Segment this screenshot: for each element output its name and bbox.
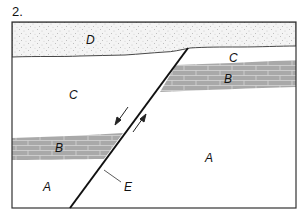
label-a-right: A [204, 151, 213, 165]
label-c-left: C [69, 88, 78, 102]
label-a-left: A [42, 180, 51, 194]
arrow-down-left-icon [115, 107, 128, 125]
label-e-leader [104, 170, 121, 182]
geologic-cross-section: 2. D C B C B A A E [0, 0, 302, 218]
figure-number: 2. [12, 4, 23, 19]
arrow-up-right-icon [133, 114, 146, 132]
label-b-left: B [55, 141, 63, 155]
label-b-right: B [224, 72, 232, 86]
label-e: E [124, 180, 133, 194]
layer-d-sandstone [12, 22, 296, 57]
layer-b-left-limestone [12, 133, 123, 160]
label-d: D [86, 33, 95, 47]
label-c-upper: C [229, 51, 238, 65]
